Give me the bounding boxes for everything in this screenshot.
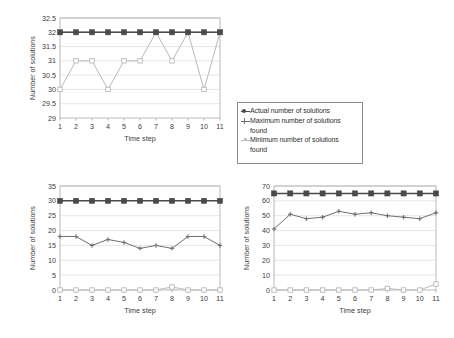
svg-text:9: 9 <box>186 294 190 303</box>
svg-text:20: 20 <box>48 226 56 235</box>
svg-text:40: 40 <box>262 226 270 235</box>
svg-text:1: 1 <box>58 122 62 131</box>
legend-marker-actual-icon <box>241 106 250 116</box>
svg-text:9: 9 <box>402 294 406 303</box>
chart-bottom-left-svg: 051015202530351234567891011Time stepNumb… <box>18 178 230 330</box>
svg-text:7: 7 <box>154 122 158 131</box>
svg-text:4: 4 <box>106 294 110 303</box>
svg-text:15: 15 <box>48 241 56 250</box>
svg-text:7: 7 <box>369 294 373 303</box>
svg-text:20: 20 <box>262 256 270 265</box>
svg-text:11: 11 <box>216 294 223 303</box>
svg-text:0: 0 <box>266 286 270 295</box>
svg-text:25: 25 <box>48 211 56 220</box>
svg-text:5: 5 <box>52 271 56 280</box>
svg-text:0: 0 <box>52 286 56 295</box>
svg-text:7: 7 <box>154 294 158 303</box>
svg-text:1: 1 <box>272 294 276 303</box>
svg-text:32: 32 <box>48 28 56 37</box>
svg-text:2: 2 <box>74 122 78 131</box>
svg-text:3: 3 <box>90 122 94 131</box>
svg-text:2: 2 <box>288 294 292 303</box>
svg-text:9: 9 <box>186 122 190 131</box>
svg-text:60: 60 <box>262 196 270 205</box>
legend-item-maximum: Maximum number of solutions <box>241 116 360 126</box>
svg-text:1: 1 <box>58 294 62 303</box>
svg-text:8: 8 <box>170 122 174 131</box>
svg-text:32.5: 32.5 <box>42 14 56 23</box>
svg-text:30.5: 30.5 <box>42 71 56 80</box>
legend-item-minimum-line2: found <box>241 145 360 154</box>
svg-text:31: 31 <box>48 56 56 65</box>
chart-panel-bottom-right: 0102030405060701234567891011Time stepNum… <box>230 178 446 330</box>
svg-text:Time step: Time step <box>339 306 370 315</box>
svg-text:30: 30 <box>262 241 270 250</box>
svg-text:30: 30 <box>48 196 56 205</box>
svg-text:11: 11 <box>216 122 223 131</box>
svg-text:5: 5 <box>122 122 126 131</box>
svg-text:35: 35 <box>48 182 56 191</box>
svg-text:3: 3 <box>90 294 94 303</box>
svg-text:5: 5 <box>122 294 126 303</box>
svg-text:31.5: 31.5 <box>42 42 56 51</box>
svg-text:10: 10 <box>200 122 208 131</box>
legend-label-actual: Actual number of solutions <box>250 106 330 116</box>
svg-text:30: 30 <box>48 85 56 94</box>
svg-text:29.5: 29.5 <box>42 99 56 108</box>
chart-bottom-right-svg: 0102030405060701234567891011Time stepNum… <box>230 178 446 330</box>
chart-panel-bottom-left: 051015202530351234567891011Time stepNumb… <box>18 178 230 330</box>
svg-text:3: 3 <box>304 294 308 303</box>
legend-marker-maximum-icon <box>241 116 250 126</box>
svg-text:Number of solutions: Number of solutions <box>28 36 37 100</box>
chart-panel-top: 2929.53030.53131.53232.51234567891011Tim… <box>18 8 230 156</box>
svg-text:70: 70 <box>262 182 270 191</box>
svg-text:2: 2 <box>74 294 78 303</box>
chart-top-svg: 2929.53030.53131.53232.51234567891011Tim… <box>18 8 230 156</box>
svg-text:8: 8 <box>170 294 174 303</box>
svg-text:5: 5 <box>337 294 341 303</box>
svg-text:10: 10 <box>416 294 424 303</box>
legend-label-minimum: Minimum number of solutions <box>250 135 339 145</box>
svg-text:6: 6 <box>138 294 142 303</box>
svg-text:6: 6 <box>138 122 142 131</box>
svg-text:11: 11 <box>432 294 439 303</box>
svg-text:10: 10 <box>200 294 208 303</box>
chart-legend: Actual number of solutions Maximum numbe… <box>237 102 363 164</box>
svg-text:10: 10 <box>262 271 270 280</box>
svg-text:Time step: Time step <box>124 134 155 143</box>
svg-text:Time step: Time step <box>124 306 155 315</box>
svg-text:4: 4 <box>321 294 325 303</box>
legend-label-minimum-line2: found <box>241 145 267 154</box>
legend-label-maximum: Maximum number of solutions <box>250 116 341 126</box>
svg-text:Number of solutions: Number of solutions <box>28 206 37 270</box>
svg-text:50: 50 <box>262 211 270 220</box>
svg-text:6: 6 <box>353 294 357 303</box>
legend-marker-minimum-icon <box>241 135 250 145</box>
svg-text:8: 8 <box>385 294 389 303</box>
svg-text:4: 4 <box>106 122 110 131</box>
legend-item-actual: Actual number of solutions <box>241 106 360 116</box>
legend-label-maximum-line2: found <box>241 126 267 135</box>
legend-item-maximum-line2: found <box>241 126 360 135</box>
svg-text:Number of solutions: Number of solutions <box>242 206 251 270</box>
svg-text:29: 29 <box>48 114 56 123</box>
svg-text:10: 10 <box>48 256 56 265</box>
legend-item-minimum: Minimum number of solutions <box>241 135 360 145</box>
